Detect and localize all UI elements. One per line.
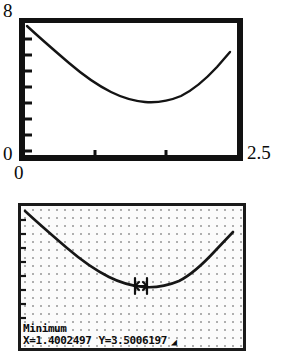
graphing-calculator-screen[interactable]: Minimum X=1.4002497 Y=3.5006197 ◢ xyxy=(18,203,246,351)
calc-y-value: Y=3.5006197 xyxy=(98,335,166,347)
lcd-plot-area xyxy=(21,206,243,321)
y-axis-max-label: 8 xyxy=(3,1,13,20)
y-axis-min-label: 0 xyxy=(3,144,13,163)
x-axis-min-label: 0 xyxy=(14,163,24,182)
lcd-curve-path xyxy=(25,211,233,287)
crosshair-cursor-icon xyxy=(135,278,147,294)
calc-x-value: X=1.4002497 xyxy=(23,335,91,347)
plot-area xyxy=(25,23,237,155)
enlarged-graph-figure: 8 0 0 2.5 xyxy=(0,0,281,186)
lcd-y-axis-ticks xyxy=(21,220,26,318)
curve-path xyxy=(27,26,230,102)
calc-cursor-glyph-icon: ◢ xyxy=(171,337,177,347)
calc-readout-panel: Minimum X=1.4002497 Y=3.5006197 ◢ xyxy=(21,322,243,348)
lcd-curve-svg xyxy=(21,206,243,321)
calc-coordinate-readout: X=1.4002497 Y=3.5006197 ◢ xyxy=(23,335,243,347)
y-axis-ticks xyxy=(25,39,32,151)
enlarged-curve-svg xyxy=(25,23,237,155)
x-axis-ticks xyxy=(95,150,166,155)
x-axis-max-label: 2.5 xyxy=(247,143,271,162)
plot-frame xyxy=(19,18,243,161)
